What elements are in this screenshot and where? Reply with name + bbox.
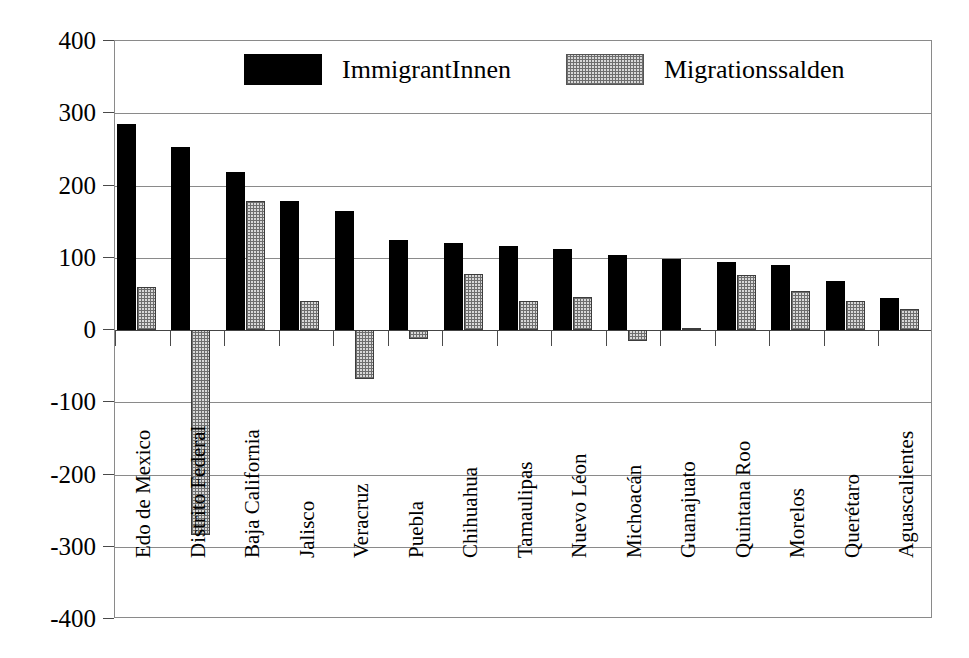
category-label: Chihuahua [460,467,481,558]
plot-area: Edo de MexicoDistrito FederalBaja Califo… [114,40,932,618]
bar [300,301,319,330]
category-label: Jalisco [297,501,318,558]
bar [409,330,428,339]
category-tick [333,330,334,346]
category-tick [606,330,607,346]
y-tick-label: -200 [0,462,96,487]
category-tick [878,330,879,346]
bar [519,301,538,330]
category-label: Guanajuato [678,461,699,558]
category-tick [551,330,552,346]
bar [682,328,701,330]
y-tick-mark [103,40,114,41]
category-tick [824,330,825,346]
bar [573,297,592,330]
bar [464,274,483,330]
category-label: Quintana Roo [733,441,754,558]
category-tick [279,330,280,346]
y-tick-mark [103,618,114,619]
legend-item-migrationssalden: Migrationssalden [566,54,845,85]
bar [553,249,572,330]
category-tick [170,330,171,346]
bar [826,281,845,330]
y-tick-mark [103,546,114,547]
bar [791,291,810,330]
legend-swatch-gray-dotted-swatch [566,54,644,85]
y-tick-label: 200 [0,173,96,198]
bar [900,309,919,330]
category-label: Veracruz [351,483,372,558]
y-tick-mark [103,257,114,258]
y-tick-label: -100 [0,389,96,414]
y-tick-label: -400 [0,606,96,631]
bar [628,330,647,341]
bar [608,255,627,330]
category-label: Baja California [242,429,263,558]
y-tick-label: 300 [0,100,96,125]
bar [389,240,408,330]
y-tick-mark [103,329,114,330]
bar [499,246,518,330]
y-tick-label: 0 [0,317,96,342]
bar [137,287,156,330]
category-label: Tamaulipas [515,462,536,559]
bar [280,201,299,330]
category-label: Distrito Federal [188,426,209,558]
y-tick-label: -300 [0,534,96,559]
legend-label-immigrantinnen: ImmigrantInnen [342,57,511,83]
category-label: Edo de Mexico [133,430,154,558]
legend-swatch-black-filled-swatch [244,54,322,85]
bar [117,124,136,330]
bar [717,262,736,330]
category-label: Morelos [787,488,808,558]
category-tick [497,330,498,346]
y-tick-mark [103,401,114,402]
category-tick [769,330,770,346]
category-tick [224,330,225,346]
bar [226,172,245,330]
category-tick [115,330,116,346]
legend-item-immigrantinnen: ImmigrantInnen [244,54,511,85]
y-tick-mark [103,474,114,475]
category-label: Nuevo Léon [569,454,590,558]
bar [335,211,354,330]
bar [737,275,756,330]
chart-legend: ImmigrantInnen Migrationssalden [244,54,844,85]
bar [880,298,899,330]
category-label: Michoacán [624,465,645,558]
bar [771,265,790,330]
bar [444,243,463,330]
category-label: Querétaro [842,474,863,558]
category-tick [388,330,389,346]
bar [846,301,865,330]
category-tick [660,330,661,346]
category-label: Puebla [406,501,427,558]
bar [246,201,265,330]
y-tick-mark [103,112,114,113]
legend-label-migrationssalden: Migrationssalden [664,57,845,83]
bar [662,259,681,330]
category-tick [715,330,716,346]
y-tick-label: 400 [0,28,96,53]
bar [355,330,374,379]
bar [171,147,190,330]
category-tick [442,330,443,346]
y-tick-label: 100 [0,245,96,270]
chart-container: 4003002001000-100-200-300-400 Edo de Mex… [0,0,969,658]
y-tick-mark [103,185,114,186]
category-label: Aguascalientes [896,431,917,558]
